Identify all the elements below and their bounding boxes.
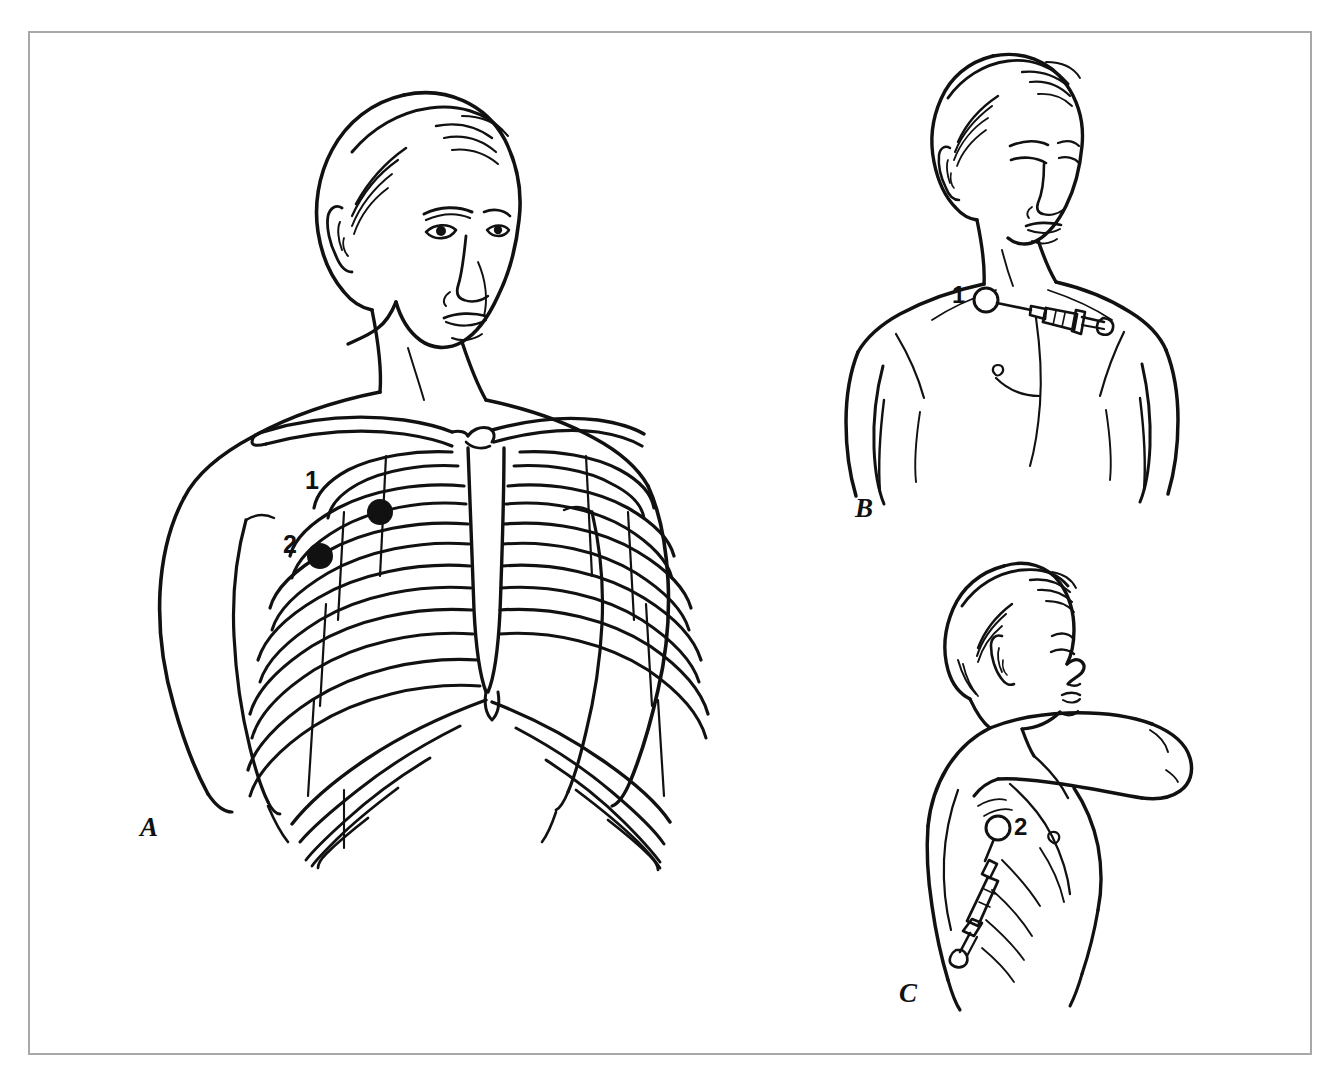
panel-label-c: C bbox=[899, 978, 918, 1009]
panel-label-b: B bbox=[855, 493, 874, 524]
panel-c-site-2-label: 2 bbox=[1014, 813, 1027, 841]
figure-root: A B C 1 2 1 2 bbox=[0, 0, 1337, 1087]
panel-a-site-1-label: 1 bbox=[305, 466, 319, 495]
panel-a-site-2-dot bbox=[307, 543, 333, 569]
panel-b-figure bbox=[846, 54, 1178, 504]
panel-a-site-1-dot bbox=[367, 499, 393, 525]
panel-a-site-2-label: 2 bbox=[283, 530, 297, 559]
panel-b-site-1-label: 1 bbox=[952, 281, 965, 309]
panel-c-figure bbox=[927, 563, 1191, 1010]
panel-a-figure bbox=[160, 93, 708, 870]
panel-label-a: A bbox=[140, 812, 159, 843]
illustration-artwork bbox=[0, 0, 1337, 1087]
